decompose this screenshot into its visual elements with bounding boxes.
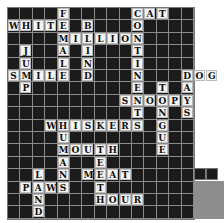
letter-cell[interactable]: E: [157, 144, 168, 155]
grid-cell[interactable]: [82, 95, 94, 107]
grid-cell[interactable]: [169, 194, 181, 206]
grid-cell[interactable]: [157, 206, 169, 218]
grid-cell[interactable]: [20, 132, 32, 144]
letter-cell[interactable]: P: [20, 182, 31, 193]
grid-cell[interactable]: [169, 132, 181, 144]
letter-cell[interactable]: N: [132, 95, 143, 106]
grid-cell[interactable]: [169, 45, 181, 57]
letter-cell[interactable]: G: [206, 70, 217, 81]
grid-cell[interactable]: [45, 206, 57, 218]
grid-cell[interactable]: [169, 206, 181, 218]
grid-cell[interactable]: [120, 58, 132, 70]
grid-cell[interactable]: [157, 157, 169, 169]
grid-cell[interactable]: [144, 120, 156, 132]
grid-cell[interactable]: [58, 194, 70, 206]
grid-cell[interactable]: [95, 95, 107, 107]
grid-cell[interactable]: [20, 169, 32, 181]
letter-cell[interactable]: S: [120, 95, 131, 106]
letter-cell[interactable]: N: [82, 58, 93, 69]
grid-cell[interactable]: [132, 132, 144, 144]
grid-cell[interactable]: [8, 8, 20, 20]
grid-cell[interactable]: [144, 144, 156, 156]
grid-cell[interactable]: [157, 169, 169, 181]
grid-cell[interactable]: [45, 132, 57, 144]
grid-cell[interactable]: [70, 82, 82, 94]
grid-cell[interactable]: [120, 182, 132, 194]
letter-cell[interactable]: R: [132, 194, 143, 205]
letter-cell[interactable]: W: [45, 120, 56, 131]
grid-cell[interactable]: [70, 20, 82, 32]
grid-cell[interactable]: [70, 70, 82, 82]
grid-cell[interactable]: [169, 157, 181, 169]
letter-cell[interactable]: S: [132, 120, 143, 131]
grid-cell[interactable]: [33, 157, 45, 169]
letter-cell[interactable]: P: [169, 95, 180, 106]
letter-cell[interactable]: L: [45, 70, 56, 81]
letter-cell[interactable]: O: [157, 95, 168, 106]
grid-cell[interactable]: [45, 107, 57, 119]
grid-cell[interactable]: [20, 95, 32, 107]
grid-cell[interactable]: [20, 8, 32, 20]
grid-cell[interactable]: [8, 157, 20, 169]
grid-cell[interactable]: [120, 107, 132, 119]
grid-cell[interactable]: [120, 70, 132, 82]
letter-cell[interactable]: M: [82, 169, 93, 180]
grid-cell[interactable]: [33, 82, 45, 94]
grid-cell[interactable]: [169, 107, 181, 119]
letter-cell[interactable]: H: [107, 144, 118, 155]
letter-cell[interactable]: O: [107, 194, 118, 205]
grid-cell[interactable]: [70, 132, 82, 144]
letter-cell[interactable]: I: [132, 58, 143, 69]
grid-cell[interactable]: [107, 20, 119, 32]
grid-cell[interactable]: [8, 58, 20, 70]
letter-cell[interactable]: Y: [182, 95, 193, 106]
grid-cell[interactable]: [33, 107, 45, 119]
grid-cell[interactable]: [82, 132, 94, 144]
grid-cell[interactable]: [70, 58, 82, 70]
letter-cell[interactable]: T: [157, 8, 168, 19]
letter-cell[interactable]: U: [20, 58, 31, 69]
grid-cell[interactable]: [58, 95, 70, 107]
grid-cell[interactable]: [107, 82, 119, 94]
letter-cell[interactable]: O: [120, 33, 131, 44]
grid-cell[interactable]: [8, 169, 20, 181]
grid-cell[interactable]: [20, 144, 32, 156]
grid-cell[interactable]: [144, 45, 156, 57]
grid-cell[interactable]: [95, 58, 107, 70]
grid-cell[interactable]: [20, 157, 32, 169]
grid-cell[interactable]: [107, 95, 119, 107]
grid-cell[interactable]: [169, 144, 181, 156]
grid-cell[interactable]: [144, 70, 156, 82]
grid-cell[interactable]: [157, 194, 169, 206]
grid-cell[interactable]: [45, 157, 57, 169]
grid-cell[interactable]: [20, 107, 32, 119]
grid-cell[interactable]: [157, 182, 169, 194]
grid-cell[interactable]: [182, 20, 194, 32]
grid-cell[interactable]: [70, 95, 82, 107]
grid-cell[interactable]: [70, 157, 82, 169]
letter-cell[interactable]: G: [157, 120, 168, 131]
grid-cell[interactable]: [58, 82, 70, 94]
letter-cell[interactable]: L: [95, 33, 106, 44]
letter-cell[interactable]: I: [70, 120, 81, 131]
grid-cell[interactable]: [45, 169, 57, 181]
grid-cell[interactable]: [182, 45, 194, 57]
letter-cell[interactable]: T: [45, 20, 56, 31]
letter-cell[interactable]: T: [120, 169, 131, 180]
letter-cell[interactable]: E: [95, 169, 106, 180]
letter-cell[interactable]: H: [58, 120, 69, 131]
grid-cell[interactable]: [58, 107, 70, 119]
grid-cell[interactable]: [33, 58, 45, 70]
grid-cell[interactable]: [144, 33, 156, 45]
grid-cell[interactable]: [95, 132, 107, 144]
letter-cell[interactable]: A: [107, 169, 118, 180]
grid-cell[interactable]: [8, 194, 20, 206]
letter-cell[interactable]: M: [58, 144, 69, 155]
letter-cell[interactable]: N: [58, 169, 69, 180]
grid-cell[interactable]: [45, 95, 57, 107]
letter-cell[interactable]: D: [33, 206, 44, 217]
grid-cell[interactable]: [144, 157, 156, 169]
grid-cell[interactable]: [8, 144, 20, 156]
grid-cell[interactable]: [132, 206, 144, 218]
letter-cell[interactable]: T: [95, 182, 106, 193]
